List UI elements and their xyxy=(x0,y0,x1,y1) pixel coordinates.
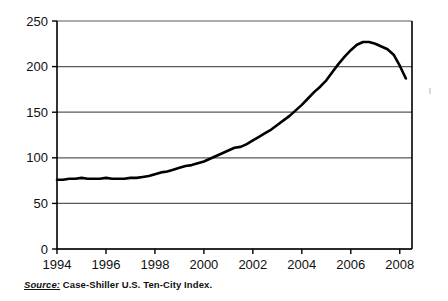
ytick-label-150: 150 xyxy=(26,105,48,120)
x-axis xyxy=(57,249,412,254)
source-note: Source: Case-Shiller U.S. Ten-City Index… xyxy=(24,279,212,290)
source-label: Source: xyxy=(24,279,60,290)
scan-artifact xyxy=(429,88,431,94)
xtick-label-2000: 2000 xyxy=(189,257,218,272)
ytick-label-50: 50 xyxy=(34,196,48,211)
series-line-0 xyxy=(57,42,406,180)
xtick-label-2006: 2006 xyxy=(336,257,365,272)
x-axis-tick-labels: 19941996199820002002200420062008 xyxy=(43,257,415,272)
y-axis-tick-labels: 050100150200250 xyxy=(26,14,48,257)
xtick-label-1996: 1996 xyxy=(92,257,121,272)
case-shiller-line-chart: 050100150200250 199419961998200020022004… xyxy=(0,0,448,301)
chart-figure: 050100150200250 199419961998200020022004… xyxy=(0,0,448,301)
xtick-label-2002: 2002 xyxy=(238,257,267,272)
ytick-label-0: 0 xyxy=(41,242,48,257)
xtick-label-2008: 2008 xyxy=(385,257,414,272)
data-series-case-shiller-ten-city-index xyxy=(57,42,406,180)
ytick-label-200: 200 xyxy=(26,59,48,74)
xtick-label-1998: 1998 xyxy=(140,257,169,272)
source-text: Case-Shiller U.S. Ten-City Index. xyxy=(60,279,212,290)
xtick-label-2004: 2004 xyxy=(287,257,316,272)
xtick-label-1994: 1994 xyxy=(43,257,72,272)
ytick-label-100: 100 xyxy=(26,150,48,165)
grid-lines xyxy=(57,21,412,249)
ytick-label-250: 250 xyxy=(26,14,48,29)
y-axis xyxy=(52,21,57,249)
